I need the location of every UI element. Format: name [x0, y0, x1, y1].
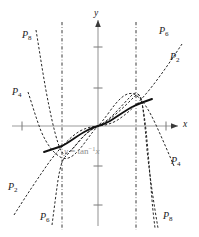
curve-P4 [28, 92, 174, 166]
plot-canvas [0, 0, 199, 237]
curve-P8 [36, 30, 158, 228]
axes-group [12, 20, 178, 226]
taylor-polynomial-figure: y x y = tan−1x P8 P4 P2 P6 P6 P2 P4 P8 [0, 0, 199, 237]
x-axis-arrowhead [171, 123, 178, 129]
curve-P6 [52, 93, 155, 228]
y-axis-arrowhead [95, 20, 101, 27]
